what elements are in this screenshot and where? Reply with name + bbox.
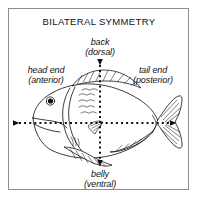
label-dorsal-secondary: (dorsal) [60, 47, 140, 57]
label-ventral: belly (ventral) [60, 169, 140, 189]
label-posterior-secondary: (posterior) [116, 75, 190, 85]
fish-body-group [33, 84, 158, 158]
label-posterior-primary: tail end [139, 65, 167, 75]
label-dorsal: back (dorsal) [60, 37, 140, 57]
label-ventral-primary: belly [91, 169, 109, 179]
label-anterior-secondary: (anterior) [10, 75, 82, 85]
label-ventral-secondary: (ventral) [60, 179, 140, 189]
label-anterior-primary: head end [28, 65, 65, 75]
fish-eye-pupil [48, 98, 53, 103]
label-posterior: tail end (posterior) [116, 65, 190, 85]
bilateral-symmetry-figure: BILATERAL SYMMETRY [0, 0, 198, 202]
label-anterior: head end (anterior) [10, 65, 82, 85]
label-dorsal-primary: back [91, 37, 110, 47]
